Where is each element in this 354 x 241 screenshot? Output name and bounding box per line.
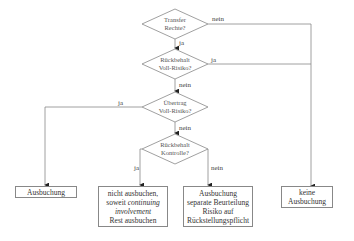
- outcome-text: Ausbuchung: [27, 188, 65, 197]
- decision-line: Kontrolle?: [161, 149, 189, 156]
- outcome-text: Rückstellungspflicht: [187, 216, 249, 225]
- decision-line: Rückbehalt: [160, 141, 190, 148]
- outcome-text-italic: involvement: [115, 207, 151, 216]
- decision-text-transfer: Transfer Rechte?: [150, 16, 200, 32]
- outcome-text: separate Beurteilung: [187, 198, 249, 207]
- edge-label-kontrolle-nein: nein: [211, 165, 223, 172]
- decision-text-rueckbehalt-voll: Rückbehalt Voll-Risiko?: [150, 56, 200, 72]
- outcome-text: nicht ausbuchen,: [108, 189, 158, 198]
- decision-line: Rückbehalt: [160, 56, 190, 63]
- outcome-teilweise: nicht ausbuchen, soweit continuing invol…: [98, 186, 168, 227]
- outcome-text-part: soweit: [106, 198, 127, 207]
- edge-label-transfer-nein: nein: [212, 16, 224, 23]
- decision-line: Voll-Risiko?: [159, 64, 192, 71]
- decision-line: Rechte?: [165, 24, 186, 31]
- edge-label-uebertrag-nein: nein: [179, 125, 191, 132]
- decision-line: Übertrag: [163, 99, 186, 106]
- outcome-text: soweit continuing: [106, 198, 160, 207]
- edge-label-kontrolle-ja: ja: [134, 165, 139, 172]
- outcome-text: Ausbuchung: [199, 189, 237, 198]
- decision-text-uebertrag-voll: Übertrag Voll-Risiko?: [150, 99, 200, 115]
- outcome-separat: Ausbuchung separate Beurteilung Risiko a…: [183, 186, 253, 227]
- edge-label-rueckbehalt-voll-nein: nein: [179, 82, 191, 89]
- outcome-ausbuchung: Ausbuchung: [15, 186, 77, 198]
- decision-line: Transfer: [164, 16, 186, 23]
- outcome-keine: keine Ausbuchung: [281, 186, 333, 208]
- outcome-text-italic: continuing: [128, 198, 160, 207]
- outcome-text: Risiko auf: [202, 207, 233, 216]
- edge-label-uebertrag-ja: ja: [118, 100, 123, 107]
- outcome-text: Ausbuchung: [288, 197, 326, 206]
- edge-label-rueckbehalt-voll-ja: ja: [211, 57, 216, 64]
- outcome-text: keine: [299, 188, 315, 197]
- decision-text-rueckbehalt-kontrolle: Rückbehalt Kontrolle?: [150, 141, 200, 157]
- edge-label-transfer-ja: ja: [179, 40, 184, 47]
- outcome-text: Rest ausbuchen: [110, 216, 157, 225]
- decision-line: Voll-Risiko?: [159, 107, 192, 114]
